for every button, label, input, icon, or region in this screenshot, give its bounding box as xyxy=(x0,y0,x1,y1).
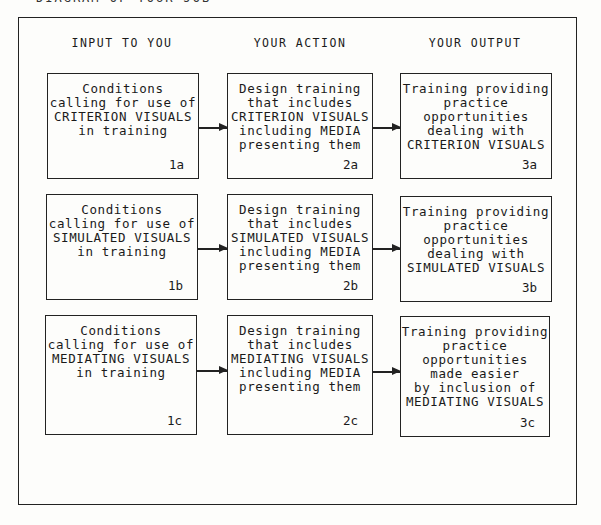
output-box-3a: Training providing practice opportunitie… xyxy=(400,73,552,179)
box-text: Training providing practice opportunitie… xyxy=(401,74,551,152)
box-id: 3a xyxy=(522,157,537,172)
input-box-1c: Conditions calling for use of MEDIATING … xyxy=(45,315,197,435)
box-id: 2c xyxy=(343,413,358,428)
column-header-input: INPUT TO YOU xyxy=(42,36,202,50)
arrow-right-icon xyxy=(373,248,400,250)
arrow-right-icon xyxy=(373,127,400,129)
action-box-2c: Design training that includes MEDIATING … xyxy=(227,315,373,435)
output-box-3b: Training providing practice opportunitie… xyxy=(400,196,552,302)
action-box-2b: Design training that includes SIMULATED … xyxy=(227,194,373,300)
box-text: Training providing practice opportunitie… xyxy=(401,317,549,409)
box-text: Conditions calling for use of MEDIATING … xyxy=(46,316,196,380)
arrow-right-icon xyxy=(373,371,400,373)
arrow-right-icon xyxy=(198,248,227,250)
box-id: 2a xyxy=(343,157,358,172)
box-id: 2b xyxy=(343,278,358,293)
box-text: Conditions calling for use of SIMULATED … xyxy=(47,195,197,259)
box-id: 1c xyxy=(167,413,182,428)
box-text: Design training that includes MEDIATING … xyxy=(228,316,372,394)
box-text: Design training that includes SIMULATED … xyxy=(228,195,372,273)
column-header-action: YOUR ACTION xyxy=(220,36,380,50)
arrow-right-icon xyxy=(199,127,227,129)
box-id: 1a xyxy=(169,157,184,172)
arrow-right-icon xyxy=(197,370,227,372)
box-id: 3b xyxy=(522,280,537,295)
page-title: DIAGRAM OF YOUR JOB xyxy=(36,0,211,5)
input-box-1b: Conditions calling for use of SIMULATED … xyxy=(46,194,198,300)
box-text: Conditions calling for use of CRITERION … xyxy=(48,74,198,138)
column-header-output: YOUR OUTPUT xyxy=(395,36,555,50)
box-text: Training providing practice opportunitie… xyxy=(401,197,551,275)
box-id: 1b xyxy=(168,278,183,293)
output-box-3c: Training providing practice opportunitie… xyxy=(400,316,550,437)
box-id: 3c xyxy=(520,415,535,430)
action-box-2a: Design training that includes CRITERION … xyxy=(227,73,373,179)
box-text: Design training that includes CRITERION … xyxy=(228,74,372,152)
input-box-1a: Conditions calling for use of CRITERION … xyxy=(47,73,199,179)
